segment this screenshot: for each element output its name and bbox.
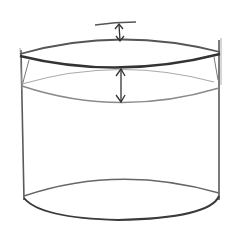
cylinder-sketch xyxy=(0,0,234,235)
inner-ellipse-back xyxy=(22,69,214,84)
bottom-ellipse-back xyxy=(24,179,219,196)
top-tick-line xyxy=(95,22,136,25)
right-taper xyxy=(214,57,218,80)
cylinder-drawing xyxy=(0,0,234,235)
top-ellipse-front xyxy=(20,54,220,68)
double-arrow-icon-bottom xyxy=(116,69,125,102)
double-arrow-icon-top xyxy=(115,24,124,41)
bottom-ellipse-front xyxy=(24,196,219,220)
